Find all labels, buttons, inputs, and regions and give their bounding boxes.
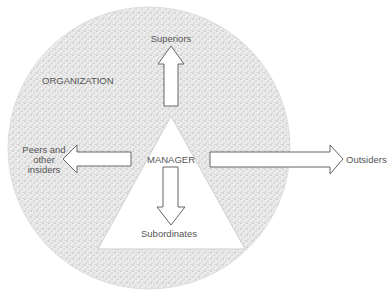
organization-label: ORGANIZATION: [42, 75, 114, 86]
manager-relationships-diagram: Superiors ORGANIZATION MANAGER Subordina…: [0, 0, 392, 300]
peers-label-line-3: insiders: [28, 164, 61, 175]
subordinates-label: Subordinates: [141, 228, 197, 239]
superiors-label: Superiors: [151, 33, 192, 44]
outsiders-label: Outsiders: [346, 154, 387, 165]
manager-label: MANAGER: [147, 154, 195, 165]
